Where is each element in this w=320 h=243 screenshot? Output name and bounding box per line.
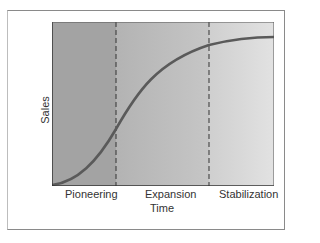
plot-area [52, 22, 274, 186]
stage-label-expansion: Expansion [145, 188, 196, 200]
stage-label-stabilization: Stabilization [219, 188, 278, 200]
sales-curve-chart [52, 22, 274, 186]
stage-label-pioneering: Pioneering [65, 188, 118, 200]
y-axis-label: Sales [39, 95, 51, 125]
stabilization-region [209, 22, 274, 186]
x-axis-label: Time [150, 202, 174, 214]
pioneering-region [52, 22, 116, 186]
